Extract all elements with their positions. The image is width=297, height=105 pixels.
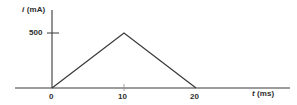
waveform-triangle xyxy=(52,33,196,88)
x-tick-label-0: 0 xyxy=(49,93,54,101)
current-vs-time-chart: i (mA) t (ms) 500 0 10 20 xyxy=(0,0,297,105)
x-axis-unit: (ms) xyxy=(257,89,274,98)
x-tick-label-20: 20 xyxy=(190,93,199,101)
y-tick-label-500: 500 xyxy=(29,29,43,37)
x-axis-label: t (ms) xyxy=(252,90,274,98)
y-axis-label: i (mA) xyxy=(22,6,45,14)
x-tick-label-10: 10 xyxy=(118,93,127,101)
y-axis-unit: (mA) xyxy=(27,5,46,14)
